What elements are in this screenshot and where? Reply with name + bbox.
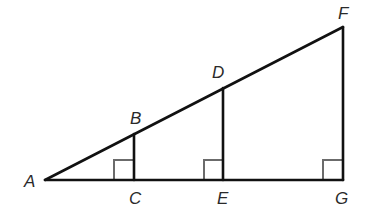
triangle-diagram: A B C D E F G [0, 0, 371, 210]
label-e: E [217, 189, 229, 208]
label-f: F [338, 4, 350, 23]
right-angle-marker-g [323, 160, 343, 180]
label-g: G [335, 189, 348, 208]
label-d: D [212, 63, 224, 82]
label-a: A [23, 172, 35, 191]
label-b: B [130, 109, 141, 128]
right-angle-marker-c [114, 160, 134, 180]
segment-af [45, 27, 343, 180]
right-angle-markers [114, 160, 343, 180]
label-c: C [129, 189, 142, 208]
segments [45, 27, 343, 180]
right-angle-marker-e [204, 160, 223, 180]
